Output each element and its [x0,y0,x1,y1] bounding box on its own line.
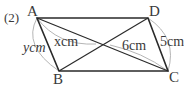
measure-ao: xcm [54,34,78,49]
vertex-b-label: B [53,71,63,86]
vertex-a-label: A [27,3,38,19]
measure-dc: 5cm [160,34,184,49]
problem-number: (2) [4,10,19,25]
parallelogram-diagram: (2) A D B C ycm xcm 6cm 5cm [0,0,184,86]
vertex-d-label: D [149,3,160,19]
measure-ab: ycm [21,40,46,55]
diagram-svg: (2) A D B C ycm xcm 6cm 5cm [0,0,184,86]
vertex-c-label: C [169,69,179,85]
measure-oc: 6cm [122,38,146,53]
